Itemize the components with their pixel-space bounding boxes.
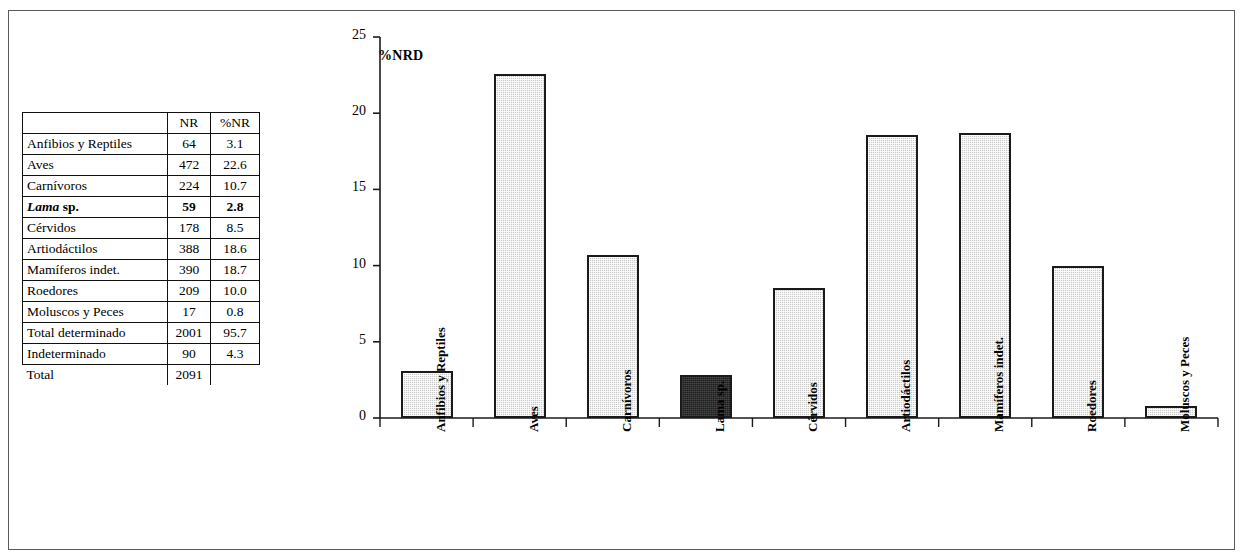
table-row: Aves47222.6 (23, 155, 260, 176)
footer-pnr-value (211, 365, 260, 386)
table-header-row: NR %NR (23, 113, 260, 134)
row-nr-value: 59 (168, 197, 211, 218)
row-pnr-value: 2.8 (211, 197, 260, 218)
x-category-label: Cérvidos (805, 382, 821, 432)
bar (494, 74, 546, 418)
row-label: Carnívoros (23, 176, 168, 197)
row-pnr-value: 0.8 (211, 302, 260, 323)
row-nr-value: 2001 (168, 323, 211, 344)
row-label-species: sp. (59, 199, 79, 214)
table-body: Anfibios y Reptiles643.1Aves47222.6Carní… (23, 134, 260, 386)
row-pnr-value: 10.7 (211, 176, 260, 197)
row-label: Moluscos y Peces (23, 302, 168, 323)
table: NR %NR Anfibios y Reptiles643.1Aves47222… (22, 112, 260, 385)
y-tick-label: 20 (340, 103, 366, 119)
table-row: Anfibios y Reptiles643.1 (23, 134, 260, 155)
row-label: Indeterminado (23, 344, 168, 365)
row-pnr-value: 18.6 (211, 239, 260, 260)
table-row: Carnívoros22410.7 (23, 176, 260, 197)
footer-label: Total (23, 365, 168, 386)
y-tick-label: 5 (340, 332, 366, 348)
row-pnr-value: 8.5 (211, 218, 260, 239)
row-nr-value: 224 (168, 176, 211, 197)
bar-chart: %NRD 0510152025 Anfibios y ReptilesAvesC… (330, 18, 1230, 552)
footer-nr-value: 2091 (168, 365, 211, 386)
row-pnr-value: 4.3 (211, 344, 260, 365)
row-nr-value: 90 (168, 344, 211, 365)
row-label-genus: Lama (27, 199, 59, 214)
row-label: Anfibios y Reptiles (23, 134, 168, 155)
row-nr-value: 388 (168, 239, 211, 260)
row-nr-value: 17 (168, 302, 211, 323)
row-nr-value: 472 (168, 155, 211, 176)
table-row: Total determinado200195.7 (23, 323, 260, 344)
row-label: Mamíferos indet. (23, 260, 168, 281)
table-row: Mamíferos indet.39018.7 (23, 260, 260, 281)
table-row: Roedores20910.0 (23, 281, 260, 302)
x-category-label: Roedores (1084, 380, 1100, 432)
nr-data-table: NR %NR Anfibios y Reptiles643.1Aves47222… (22, 112, 260, 385)
x-category-label: Mamíferos indet. (991, 337, 1007, 432)
row-nr-value: 390 (168, 260, 211, 281)
x-category-label: Artiodáctilos (898, 360, 914, 432)
x-category-label: Aves (526, 406, 542, 432)
row-pnr-value: 22.6 (211, 155, 260, 176)
row-pnr-value: 95.7 (211, 323, 260, 344)
row-label: Lama sp. (23, 197, 168, 218)
row-nr-value: 64 (168, 134, 211, 155)
row-label: Artiodáctilos (23, 239, 168, 260)
row-label: Total determinado (23, 323, 168, 344)
y-tick-label: 25 (340, 27, 366, 43)
table-footer-row: Total2091 (23, 365, 260, 386)
header-cell-pnr: %NR (211, 113, 260, 134)
figure-page: NR %NR Anfibios y Reptiles643.1Aves47222… (0, 0, 1243, 560)
x-category-label: Lama sp. (712, 381, 728, 432)
table-row: Cérvidos1788.5 (23, 218, 260, 239)
table-row: Moluscos y Peces170.8 (23, 302, 260, 323)
y-tick-label: 15 (340, 179, 366, 195)
row-label: Cérvidos (23, 218, 168, 239)
table-row: Indeterminado904.3 (23, 344, 260, 365)
row-label: Roedores (23, 281, 168, 302)
y-tick-label: 0 (340, 408, 366, 424)
table-row: Lama sp.592.8 (23, 197, 260, 218)
table-header: NR %NR (23, 113, 260, 134)
header-cell-nr: NR (168, 113, 211, 134)
header-cell-blank (23, 113, 168, 134)
y-tick-label: 10 (340, 256, 366, 272)
row-label: Aves (23, 155, 168, 176)
x-category-label: Moluscos y Peces (1177, 337, 1193, 432)
table-row: Artiodáctilos38818.6 (23, 239, 260, 260)
row-pnr-value: 18.7 (211, 260, 260, 281)
x-category-label: Carnívoros (619, 369, 635, 432)
row-nr-value: 209 (168, 281, 211, 302)
row-pnr-value: 3.1 (211, 134, 260, 155)
row-pnr-value: 10.0 (211, 281, 260, 302)
x-category-label: Anfibios y Reptiles (433, 327, 449, 432)
row-nr-value: 178 (168, 218, 211, 239)
